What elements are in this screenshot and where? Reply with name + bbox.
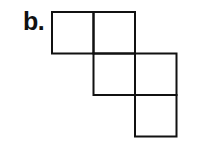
square-cell-3 (94, 54, 136, 96)
square-cell-4 (135, 54, 177, 96)
square-cell-1 (52, 12, 94, 54)
square-net-figure (0, 0, 197, 146)
square-cell-5 (135, 95, 177, 137)
square-cell-2 (94, 12, 136, 54)
square-cells (52, 12, 177, 137)
